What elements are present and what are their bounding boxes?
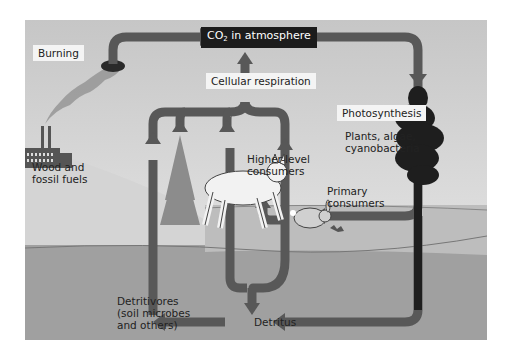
higher-level-consumers-label: Higher-levelconsumers (247, 153, 310, 177)
producers-label: Plants, algae,cyanobacteria (345, 130, 420, 154)
burning-label: Burning (33, 45, 84, 61)
co2-atmosphere-label: CO2 in atmosphere (201, 27, 317, 48)
cellular-respiration-label: Cellular respiration (206, 73, 316, 89)
diagram-artwork (25, 20, 487, 340)
detritus-label: Detritus (254, 316, 296, 328)
carbon-cycle-diagram: CO2 in atmosphere Burning Cellular respi… (25, 20, 487, 340)
detritivores-label: Detritivores(soil microbesand others) (117, 295, 190, 331)
wood-fossil-fuels-label: Wood andfossil fuels (32, 161, 87, 185)
photosynthesis-label: Photosynthesis (337, 105, 426, 121)
primary-consumers-label: Primaryconsumers (327, 185, 384, 209)
